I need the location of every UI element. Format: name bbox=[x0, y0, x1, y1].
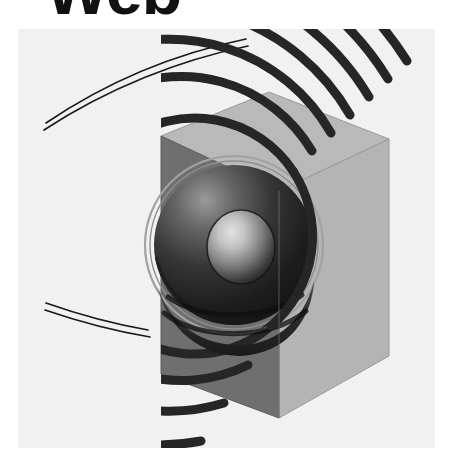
loudspeaker-illustration bbox=[18, 29, 435, 448]
page-heading-clip: Web bbox=[0, 0, 452, 24]
page-title: Web bbox=[46, 0, 181, 24]
loudspeaker-illustration-svg bbox=[18, 29, 435, 448]
